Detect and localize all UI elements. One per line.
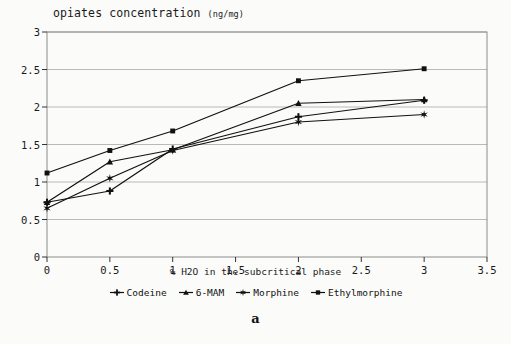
legend-entry-ethylmorphine[interactable]: Ethylmorphine xyxy=(310,287,402,298)
x-tick-label: 2 xyxy=(278,264,318,276)
x-tick-label: 0.5 xyxy=(90,264,130,276)
x-tick-label: 3 xyxy=(404,264,444,276)
plus-marker-icon xyxy=(109,287,125,298)
data-point-plus xyxy=(113,289,119,295)
star-marker-icon xyxy=(235,287,251,298)
y-tick-label: 2.5 xyxy=(4,64,40,76)
square-marker-icon xyxy=(310,287,326,298)
series-line xyxy=(47,100,424,203)
x-tick-label: 3.5 xyxy=(467,264,507,276)
data-point-plus xyxy=(106,187,113,194)
y-tick-label: 0 xyxy=(4,251,40,263)
x-tick-label: 1.5 xyxy=(216,264,256,276)
chart-title-text: opiates concentration xyxy=(53,6,201,20)
legend-entry-morphine[interactable]: Morphine xyxy=(235,287,299,298)
x-tick-label: 1 xyxy=(153,264,193,276)
chart-legend: Codeine6-MAMMorphineEthylmorphine xyxy=(0,287,511,298)
series-ethylmorphine xyxy=(45,66,427,175)
data-point-square xyxy=(422,66,427,71)
x-tick-label: 2.5 xyxy=(341,264,381,276)
series-line xyxy=(47,115,424,209)
chart-figure: opiates concentration (ng/mg) % H2O in t… xyxy=(0,0,511,344)
y-tick-label: 3 xyxy=(4,26,40,38)
legend-label: 6-MAM xyxy=(196,287,225,298)
data-point-star xyxy=(106,174,113,183)
panel-label: a xyxy=(0,311,511,326)
y-tick-label: 1.5 xyxy=(4,139,40,151)
legend-entry-6-mam[interactable]: 6-MAM xyxy=(178,287,225,298)
x-tick-label: 0 xyxy=(27,264,67,276)
data-point-square xyxy=(45,171,50,176)
data-point-square xyxy=(316,290,320,294)
series-morphine xyxy=(43,110,428,212)
legend-entry-codeine[interactable]: Codeine xyxy=(109,287,167,298)
y-tick-label: 2 xyxy=(4,101,40,113)
chart-title: opiates concentration (ng/mg) xyxy=(53,6,244,20)
triangle-marker-icon xyxy=(178,287,194,298)
legend-label: Morphine xyxy=(253,287,299,298)
data-point-star xyxy=(43,204,50,213)
legend-label: Codeine xyxy=(127,287,167,298)
data-point-square xyxy=(296,78,301,83)
data-point-square xyxy=(107,148,112,153)
series-6-mam xyxy=(44,96,428,205)
series-line xyxy=(47,69,424,173)
data-point-square xyxy=(170,129,175,134)
series-line xyxy=(47,100,424,202)
y-tick-label: 0.5 xyxy=(4,214,40,226)
series-codeine xyxy=(43,97,427,206)
chart-title-units: (ng/mg) xyxy=(208,9,245,19)
y-tick-label: 1 xyxy=(4,176,40,188)
legend-label: Ethylmorphine xyxy=(328,287,402,298)
